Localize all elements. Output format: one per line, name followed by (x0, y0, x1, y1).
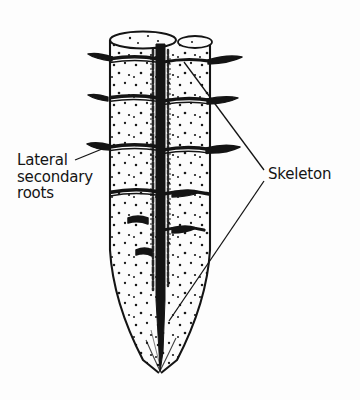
label-lateral-secondary-roots: Lateral secondary roots (17, 152, 93, 202)
figure-page: Lateral secondary roots Skeleton (0, 0, 360, 400)
label-skeleton: Skeleton (268, 166, 331, 183)
